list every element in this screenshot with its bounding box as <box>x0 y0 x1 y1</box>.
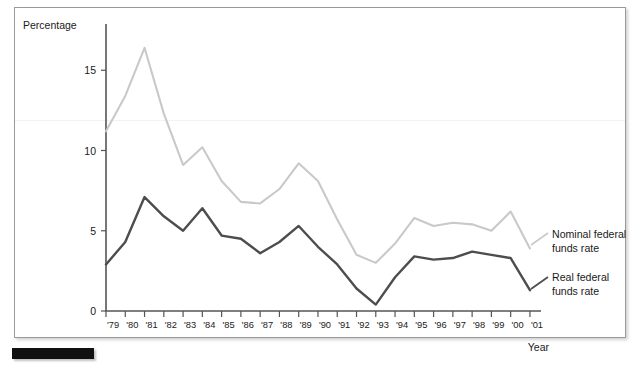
y-axis-tick-label: 15 <box>84 64 96 76</box>
x-axis-tick-label: '01 <box>531 320 543 330</box>
x-axis-tick-label: '94 <box>396 320 408 330</box>
x-axis-tick-label: '93 <box>377 320 389 330</box>
x-axis-tick-label: '00 <box>512 320 524 330</box>
chart-plot-area: 051015 '79'80'81'82'83'84'85'86'87'88'89… <box>0 0 641 365</box>
y-axis-tick-label: 0 <box>90 305 96 317</box>
series-line-nominal-federal-funds-rate <box>106 48 530 263</box>
x-axis-tick-label: '86 <box>242 320 254 330</box>
legend-label-nominal-line2: funds rate <box>552 242 599 254</box>
legend-leaders <box>531 233 548 289</box>
x-axis-tick-label: '95 <box>415 320 427 330</box>
x-axis-tick-label: '88 <box>280 320 292 330</box>
x-axis-tick-label: '85 <box>223 320 235 330</box>
x-axis-tick-label: '90 <box>319 320 331 330</box>
legend-label-nominal-line1: Nominal federal <box>552 228 626 240</box>
x-axis-tick-label: '83 <box>184 320 196 330</box>
x-axis-tick-labels: '79'80'81'82'83'84'85'86'87'88'89'90'91'… <box>107 320 543 330</box>
y-axis-title: Percentage <box>23 19 77 31</box>
x-axis-tick-label: '97 <box>454 320 466 330</box>
x-axis-title: Year <box>528 341 550 353</box>
x-axis-tick-label: '84 <box>203 320 215 330</box>
chart-axes <box>106 24 541 311</box>
x-axis-tick-label: '79 <box>107 320 119 330</box>
y-axis-tick-labels: 051015 <box>84 64 96 317</box>
x-axis-tick-label: '98 <box>473 320 485 330</box>
series-line-real-federal-funds-rate <box>106 197 530 305</box>
y-axis-tick-label: 10 <box>84 145 96 157</box>
x-axis-tick-label: '82 <box>165 320 177 330</box>
legend-label-real-line1: Real federal <box>552 271 609 283</box>
legend-label-real-line2: funds rate <box>552 285 599 297</box>
x-axis-tick-label: '99 <box>492 320 504 330</box>
x-axis-tick-label: '89 <box>300 320 312 330</box>
x-axis-tick-label: '92 <box>357 320 369 330</box>
chart-figure: 051015 '79'80'81'82'83'84'85'86'87'88'89… <box>0 0 641 365</box>
x-axis-ticks <box>106 311 530 317</box>
x-axis-tick-label: '80 <box>126 320 138 330</box>
y-axis-tick-label: 5 <box>90 225 96 237</box>
x-axis-tick-label: '81 <box>145 320 157 330</box>
x-axis-tick-label: '96 <box>435 320 447 330</box>
x-axis-tick-label: '87 <box>261 320 273 330</box>
x-axis-tick-label: '91 <box>338 320 350 330</box>
